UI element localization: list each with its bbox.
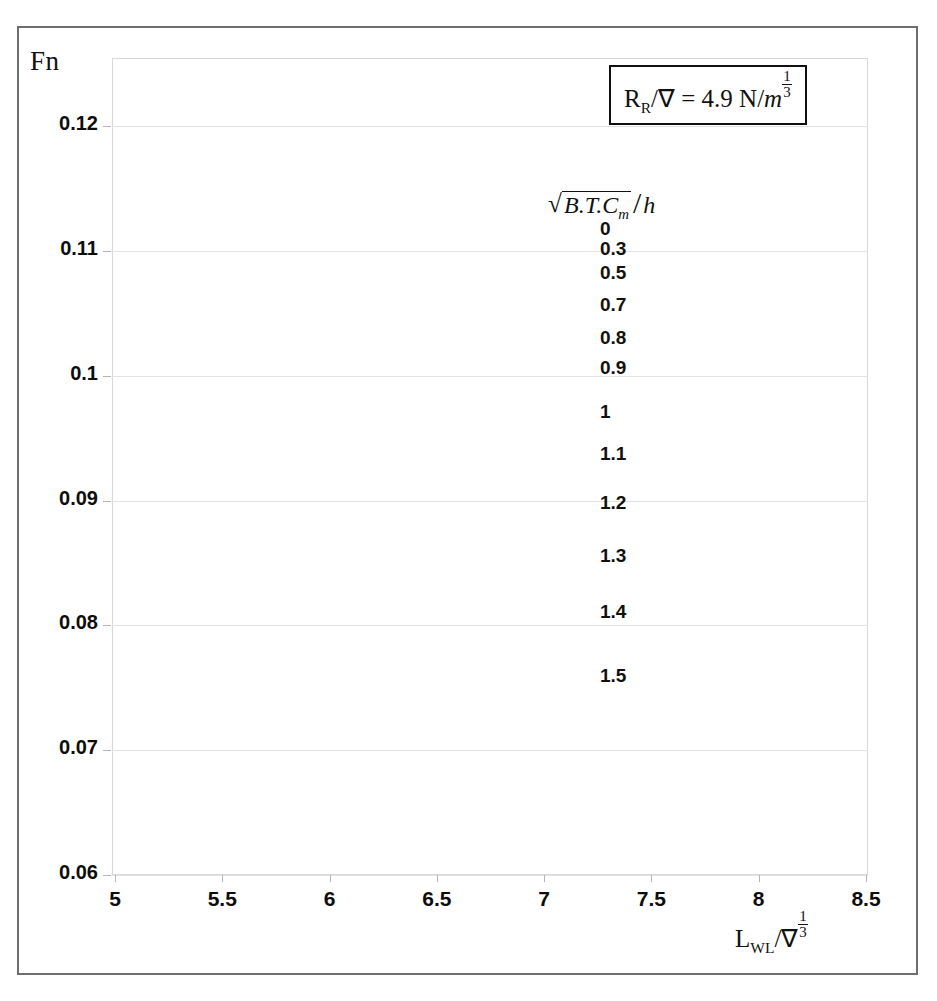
plot-frame xyxy=(112,58,868,875)
curve-label-0-3: 0.3 xyxy=(600,238,626,260)
y-tick-label: 0.09 xyxy=(0,487,98,510)
x-tick-mark xyxy=(866,875,867,882)
annotation-lead: R xyxy=(624,85,641,112)
curve-label-0: 0 xyxy=(600,218,611,240)
y-axis-title: Fn xyxy=(30,46,60,77)
y-tick-mark xyxy=(103,875,111,876)
y-tick-label: 0.11 xyxy=(0,237,98,260)
legend-radicand: B.T.Cm xyxy=(562,191,631,223)
legend-radicand-text: B.T.C xyxy=(564,192,618,218)
x-tick-label: 7 xyxy=(538,887,550,911)
x-tick-label: 5.5 xyxy=(208,887,237,911)
x-tick-label: 8 xyxy=(753,887,765,911)
gridline-horizontal xyxy=(112,126,868,127)
y-tick-mark xyxy=(103,501,111,502)
gridline-horizontal xyxy=(112,875,868,876)
plot-area xyxy=(112,58,868,875)
curve-label-0-7: 0.7 xyxy=(600,294,626,316)
y-tick-mark xyxy=(103,126,111,127)
x-tick-mark xyxy=(651,875,652,882)
curve-label-1-5: 1.5 xyxy=(600,665,626,687)
annotation-slash: / xyxy=(651,85,658,112)
x-axis-title: LWL/∇13 xyxy=(735,912,808,957)
x-tick-mark xyxy=(437,875,438,882)
legend-radicand-sub: m xyxy=(618,206,629,222)
gridline-horizontal xyxy=(112,501,868,502)
y-tick-label: 0.1 xyxy=(0,362,98,385)
gridline-horizontal xyxy=(112,625,868,626)
chart-page: Fn 0.120.110.10.090.080.070.06 55.566.57… xyxy=(0,0,937,1001)
x-tick-label: 5 xyxy=(109,887,121,911)
annotation-exp-den: 3 xyxy=(782,85,792,100)
gridline-horizontal xyxy=(112,251,868,252)
y-tick-mark xyxy=(103,376,111,377)
annotation-box: RR/∇ = 4.9 N/m13 xyxy=(609,65,807,125)
x-axis-title-main: L xyxy=(735,925,750,952)
curve-label-0-8: 0.8 xyxy=(600,327,626,349)
x-tick-label: 6.5 xyxy=(422,887,451,911)
x-axis-title-exponent: 13 xyxy=(798,909,808,940)
x-tick-label: 7.5 xyxy=(637,887,666,911)
x-tick-mark xyxy=(759,875,760,882)
curve-label-1-3: 1.3 xyxy=(600,545,626,567)
y-tick-label: 0.08 xyxy=(0,611,98,634)
annotation-nabla: ∇ xyxy=(658,85,675,112)
x-tick-mark xyxy=(330,875,331,882)
x-tick-mark xyxy=(222,875,223,882)
y-tick-mark xyxy=(103,750,111,751)
annotation-equals: = 4.9 N/ xyxy=(681,85,764,112)
curve-label-0-9: 0.9 xyxy=(600,357,626,379)
legend-divider: / xyxy=(631,186,643,219)
x-exp-num: 1 xyxy=(798,909,808,925)
y-tick-mark xyxy=(103,251,111,252)
x-tick-mark xyxy=(544,875,545,882)
x-exp-den: 3 xyxy=(798,925,808,940)
y-tick-label: 0.07 xyxy=(0,736,98,759)
curve-label-1-1: 1.1 xyxy=(600,443,626,465)
curve-label-1-2: 1.2 xyxy=(600,492,626,514)
gridline-horizontal xyxy=(112,750,868,751)
x-axis-title-nabla: ∇ xyxy=(781,925,798,952)
y-tick-label: 0.06 xyxy=(0,861,98,884)
x-tick-label: 6 xyxy=(324,887,336,911)
sqrt-icon: B.T.Cm xyxy=(548,191,631,223)
annotation-unit: m xyxy=(764,85,782,112)
y-tick-mark xyxy=(103,625,111,626)
annotation-exp-num: 1 xyxy=(782,69,792,85)
y-tick-label: 0.12 xyxy=(0,112,98,135)
legend-denominator: h xyxy=(643,192,655,218)
x-axis-title-sub: WL xyxy=(750,939,774,956)
gridline-horizontal xyxy=(112,376,868,377)
curve-label-0-5: 0.5 xyxy=(600,262,626,284)
curve-label-1-4: 1.4 xyxy=(600,601,626,623)
x-tick-label: 8.5 xyxy=(851,887,880,911)
annotation-exponent: 13 xyxy=(782,69,792,100)
annotation-lead-sub: R xyxy=(641,99,651,116)
x-tick-mark xyxy=(115,875,116,882)
curve-label-1: 1 xyxy=(600,401,611,423)
